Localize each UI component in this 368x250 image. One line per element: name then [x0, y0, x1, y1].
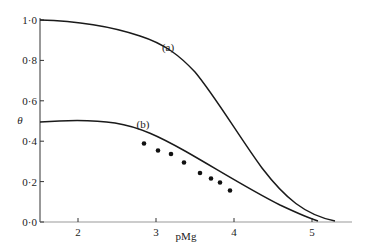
x-tick-label: 2	[75, 226, 81, 238]
curve-a-label: (a)	[162, 41, 175, 54]
y-tick-label: 0·8	[22, 54, 37, 66]
x-tick-label: 3	[153, 226, 159, 238]
x-tick-label: 5	[309, 226, 315, 238]
chart: 0·0 0·2 0·4 0·6 0·8 1·0 2 3 4 5 pMg θ (a…	[0, 0, 368, 250]
y-tick-label: 0·0	[22, 216, 37, 228]
y-tick-label: 1·0	[22, 14, 37, 26]
experimental-points	[142, 141, 233, 193]
y-tick-label: 0·4	[22, 135, 37, 147]
x-tick-label: 4	[231, 226, 237, 238]
x-ticks	[78, 218, 312, 222]
y-tick-label: 0·6	[22, 95, 37, 107]
y-tick-label: 0·2	[22, 176, 37, 188]
x-axis-label: pMg	[176, 230, 197, 242]
curve-b-label: (b)	[137, 118, 150, 131]
curve-b	[40, 120, 318, 221]
y-axis-label: θ	[17, 114, 23, 126]
